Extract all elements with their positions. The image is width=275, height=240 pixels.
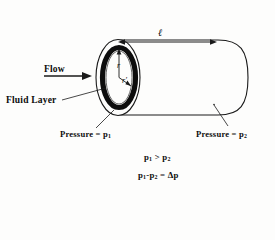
equation-inequality: p1 > p2	[144, 152, 171, 162]
pressure2-anchor-dot	[213, 104, 215, 106]
length-label: ℓ	[158, 27, 162, 38]
pressure1-leader-line	[96, 110, 114, 128]
pressure-left-label: Pressure = p1	[60, 129, 111, 139]
pressure-right-subscript: 2	[244, 133, 247, 139]
radius-rprime-label: r′	[122, 76, 127, 85]
radius-r-label: r	[117, 61, 120, 70]
eq2-term2-sub: 2	[155, 174, 158, 180]
flow-label: Flow	[44, 64, 65, 74]
pressure-left-text: Pressure = p	[60, 129, 108, 139]
equation-difference: p1-p2 = Δp	[138, 170, 179, 180]
eq2-result: Δp	[168, 170, 179, 180]
clipped-caption-sliver	[24, 189, 94, 197]
eq1-operator: >	[155, 152, 160, 162]
pressure-right-text: Pressure = p	[196, 129, 244, 139]
pressure-right-label: Pressure = p2	[196, 129, 247, 139]
fluid-layer-label: Fluid Layer	[6, 95, 57, 105]
eq1-rhs-sub: 2	[167, 156, 170, 162]
eq1-lhs-sub: 1	[149, 156, 152, 162]
pressure-left-subscript: 1	[108, 133, 111, 139]
flow-arrow-head	[82, 72, 92, 80]
eq2-equals: =	[160, 170, 165, 180]
cylinder-right-cap	[218, 40, 248, 115]
